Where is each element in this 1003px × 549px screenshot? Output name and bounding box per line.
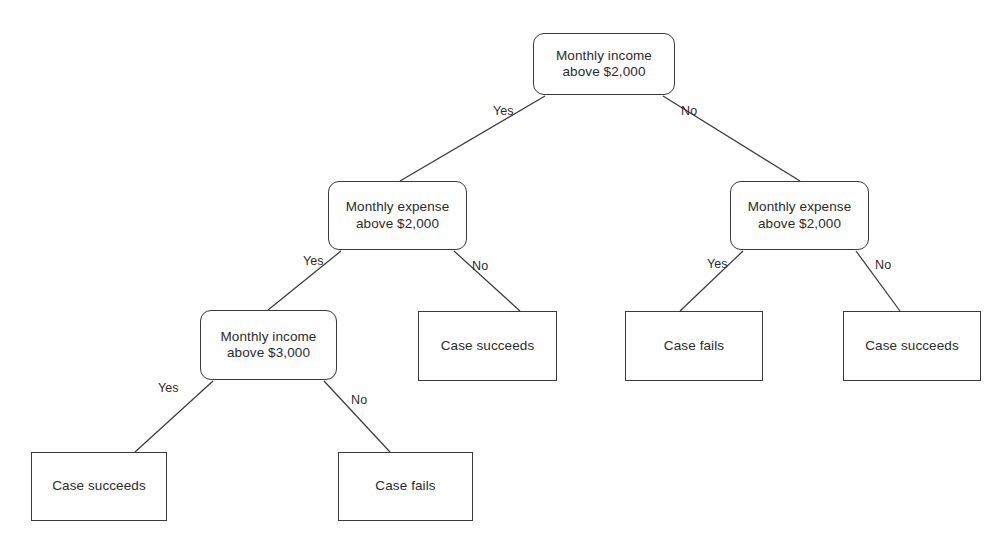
edge-label-left-expense-yes: Yes [303, 254, 324, 268]
edge-root-yes [400, 96, 545, 181]
node-label-leaf-succeeds-bottom: Case succeeds [46, 478, 152, 495]
node-right-expense: Monthly expense above $2,000 [730, 181, 869, 250]
node-label-right-expense: Monthly expense above $2,000 [742, 199, 858, 232]
node-label-left-expense: Monthly expense above $2,000 [340, 199, 456, 232]
node-income-3000: Monthly income above $3,000 [200, 310, 337, 380]
node-leaf-fails-bottom: Case fails [338, 452, 473, 521]
edge-label-root-no: No [681, 104, 697, 118]
node-label-leaf-fails-right: Case fails [658, 338, 730, 355]
node-label-income-3000: Monthly income above $3,000 [215, 329, 323, 362]
edge-label-income-3000-no: No [351, 393, 367, 407]
node-label-leaf-succeeds-right: Case succeeds [859, 338, 965, 355]
node-label-root: Monthly income above $2,000 [550, 48, 658, 81]
edge-label-right-expense-yes: Yes [707, 257, 728, 271]
decision-tree-diagram: Monthly income above $2,000Monthly expen… [0, 0, 1003, 549]
node-leaf-succeeds-bottom: Case succeeds [31, 452, 167, 521]
node-root: Monthly income above $2,000 [533, 33, 675, 95]
node-label-leaf-succeeds-mid: Case succeeds [435, 338, 541, 355]
node-leaf-succeeds-mid: Case succeeds [418, 311, 557, 381]
node-label-leaf-fails-bottom: Case fails [369, 478, 441, 495]
node-leaf-succeeds-right: Case succeeds [843, 311, 981, 381]
edge-label-root-yes: Yes [493, 104, 514, 118]
edge-label-left-expense-no: No [472, 259, 488, 273]
edge-label-income-3000-yes: Yes [158, 381, 179, 395]
node-leaf-fails-right: Case fails [625, 311, 763, 381]
edge-income-3000-no [324, 381, 390, 452]
edge-label-right-expense-no: No [875, 258, 891, 272]
node-left-expense: Monthly expense above $2,000 [328, 181, 467, 250]
